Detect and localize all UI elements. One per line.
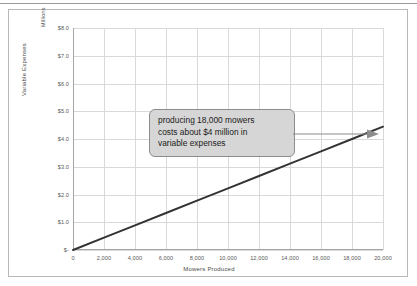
y-axis-tick-label: $6.0 bbox=[58, 81, 69, 87]
gridline-horizontal bbox=[73, 250, 383, 251]
x-axis-tick-label: 20,000 bbox=[374, 255, 392, 261]
x-axis-tick-label: 10,000 bbox=[219, 255, 237, 261]
y-axis-tick-label: $8.0 bbox=[58, 25, 69, 31]
x-axis-tick-label: 14,000 bbox=[281, 255, 299, 261]
x-axis-tick-label: 0 bbox=[71, 255, 74, 261]
x-axis-tick-label: 16,000 bbox=[312, 255, 330, 261]
y-axis-units-label: Millions bbox=[40, 7, 46, 27]
x-axis-tick-label: 6,000 bbox=[159, 255, 174, 261]
callout-arrow-icon bbox=[293, 124, 381, 144]
x-axis-tick-label: 2,000 bbox=[97, 255, 112, 261]
y-axis-title: Variable Expenses bbox=[21, 43, 27, 96]
x-axis-tick-label: 8,000 bbox=[190, 255, 205, 261]
y-axis-tick-label: $- bbox=[64, 247, 69, 253]
callout-line-1: producing 18,000 mowers bbox=[158, 115, 286, 127]
x-axis-tick-label: 12,000 bbox=[250, 255, 268, 261]
y-axis-tick-label: $7.0 bbox=[58, 53, 69, 59]
x-axis-title: Mowers Produced bbox=[9, 266, 409, 272]
annotation-callout: producing 18,000 mowers costs about $4 m… bbox=[149, 109, 295, 157]
y-axis-tick-labels: $8.0$7.0$6.0$5.0$4.0$3.0$2.0$1.0$- bbox=[45, 28, 69, 250]
top-divider-rule bbox=[0, 3, 417, 4]
x-axis-tick-label: 18,000 bbox=[343, 255, 361, 261]
y-axis-tick-label: $2.0 bbox=[58, 192, 69, 198]
callout-line-3: variable expenses bbox=[158, 138, 286, 150]
chart-frame: Variable Expenses Millions $8.0$7.0$6.0$… bbox=[8, 9, 408, 277]
x-axis-tick-label: 4,000 bbox=[128, 255, 143, 261]
y-axis-tick-label: $1.0 bbox=[58, 219, 69, 225]
x-axis-tick-labels: 02,0004,0006,0008,00010,00012,00014,0001… bbox=[73, 255, 383, 265]
y-axis-tick-label: $5.0 bbox=[58, 108, 69, 114]
gridline-vertical bbox=[383, 28, 384, 250]
callout-line-2: costs about $4 million in bbox=[158, 127, 286, 139]
y-axis-tick-label: $4.0 bbox=[58, 136, 69, 142]
y-axis-tick-label: $3.0 bbox=[58, 164, 69, 170]
